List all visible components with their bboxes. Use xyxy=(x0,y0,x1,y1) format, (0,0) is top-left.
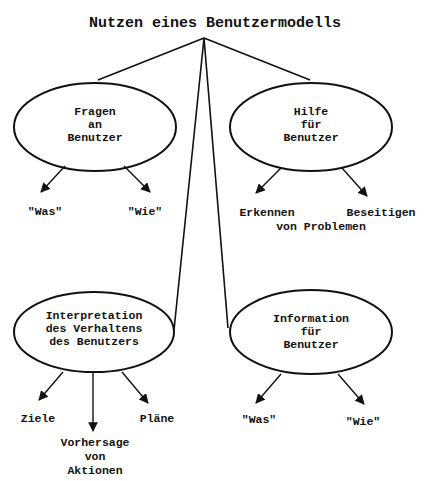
svg-text:des Verhaltens: des Verhaltens xyxy=(46,322,143,335)
svg-text:Benutzer: Benutzer xyxy=(283,338,338,351)
svg-text:Interpretation: Interpretation xyxy=(46,309,143,322)
connector-lines xyxy=(98,38,310,330)
svg-text:Fragen: Fragen xyxy=(74,105,116,118)
svg-text:für: für xyxy=(301,325,322,338)
svg-text:Hilfe: Hilfe xyxy=(294,105,329,118)
child-ziele: Ziele xyxy=(21,412,56,425)
svg-text:Aktionen: Aktionen xyxy=(67,464,122,477)
svg-text:Benutzer: Benutzer xyxy=(67,131,122,144)
child-was: "Was" xyxy=(242,413,277,426)
svg-text:an: an xyxy=(88,118,102,131)
node-fragen: Fragen an Benutzer "Was" "Wie" xyxy=(14,83,176,218)
benutzermodell-diagram: Nutzen eines Benutzermodells Fragen an B… xyxy=(0,0,431,481)
child-wie: "Wie" xyxy=(128,205,163,218)
node-hilfe: Hilfe für Benutzer Erkennen Beseitigen v… xyxy=(230,83,416,233)
svg-text:des Benutzers: des Benutzers xyxy=(49,335,139,348)
child-erkennen: Erkennen xyxy=(239,206,294,219)
child-beseitigen: Beseitigen xyxy=(346,206,415,219)
svg-text:von: von xyxy=(85,450,106,463)
child-was: "Was" xyxy=(28,205,63,218)
node-interpretation: Interpretation des Verhaltens des Benutz… xyxy=(14,292,174,477)
child-plaene: Pläne xyxy=(140,412,175,425)
diagram-title: Nutzen eines Benutzermodells xyxy=(89,15,341,32)
svg-text:für: für xyxy=(301,118,322,131)
svg-text:Information: Information xyxy=(273,312,349,325)
svg-text:Benutzer: Benutzer xyxy=(283,131,338,144)
node-information: Information für Benutzer "Was" "Wie" xyxy=(230,290,392,428)
child-von-problemen: von Problemen xyxy=(276,220,366,233)
child-vorhersage: Vorhersage xyxy=(60,436,129,449)
child-wie: "Wie" xyxy=(346,415,381,428)
